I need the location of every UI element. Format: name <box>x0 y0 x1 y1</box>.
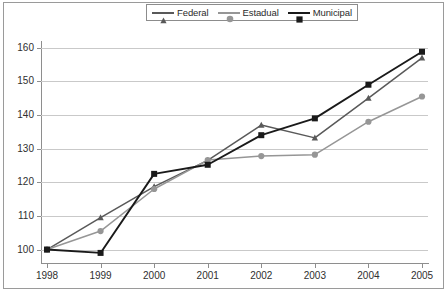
legend-item-federal: Federal <box>152 8 209 18</box>
y-tick-mark <box>37 115 41 116</box>
y-tick-mark <box>37 182 41 183</box>
x-tick-mark <box>315 264 316 268</box>
legend-swatch-municipal <box>288 8 310 18</box>
chart-figure: Federal Estadual Municipal 1001101201 <box>0 0 448 292</box>
x-tick-label: 2003 <box>304 270 326 281</box>
legend-label-estadual: Estadual <box>243 8 279 18</box>
x-tick-label: 2005 <box>411 270 433 281</box>
y-tick-label: 150 <box>17 76 34 86</box>
x-tick-label: 2002 <box>250 270 272 281</box>
gridline <box>41 182 428 183</box>
y-tick-label: 130 <box>17 144 34 154</box>
gridline <box>41 149 428 150</box>
legend-swatch-estadual <box>218 8 240 18</box>
x-tick-label: 2000 <box>143 270 165 281</box>
gridline <box>41 250 428 251</box>
y-tick-mark <box>37 149 41 150</box>
triangle-icon <box>160 10 167 28</box>
x-tick-mark <box>101 264 102 268</box>
plot-area <box>41 41 428 263</box>
y-tick-label: 120 <box>17 177 34 187</box>
x-tick-label: 1998 <box>36 270 58 281</box>
legend-item-municipal: Municipal <box>288 8 352 18</box>
square-icon <box>296 9 303 27</box>
x-tick-mark <box>154 264 155 268</box>
chart-legend: Federal Estadual Municipal <box>146 4 358 21</box>
y-axis-labels: 100110120130140150160 <box>0 0 34 292</box>
y-tick-label: 140 <box>17 110 34 120</box>
y-tick-mark <box>37 81 41 82</box>
gridline <box>41 81 428 82</box>
circle-icon <box>226 9 234 27</box>
y-tick-mark <box>37 216 41 217</box>
y-tick-mark <box>37 48 41 49</box>
x-tick-mark <box>208 264 209 268</box>
y-tick-mark <box>37 250 41 251</box>
x-axis-line <box>41 263 429 264</box>
y-tick-label: 100 <box>17 245 34 255</box>
gridline <box>41 115 428 116</box>
x-tick-mark <box>47 264 48 268</box>
x-tick-label: 1999 <box>89 270 111 281</box>
x-tick-mark <box>422 264 423 268</box>
legend-label-municipal: Municipal <box>313 8 352 18</box>
gridline <box>41 216 428 217</box>
y-tick-label: 110 <box>18 211 34 221</box>
x-tick-label: 2004 <box>357 270 379 281</box>
gridline <box>41 48 428 49</box>
x-tick-mark <box>368 264 369 268</box>
x-tick-label: 2001 <box>197 270 219 281</box>
legend-swatch-federal <box>152 8 174 18</box>
y-tick-label: 160 <box>17 43 34 53</box>
legend-label-federal: Federal <box>177 8 209 18</box>
x-tick-mark <box>261 264 262 268</box>
legend-item-estadual: Estadual <box>218 8 279 18</box>
